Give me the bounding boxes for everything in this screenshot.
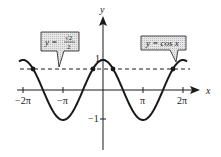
- tick-label-y1: 1: [95, 53, 100, 64]
- point-pi-4: [111, 67, 116, 72]
- tick-label-pi: π: [140, 95, 145, 106]
- callout-cos-x: y = cos x: [141, 36, 186, 62]
- y-axis-label: y: [99, 4, 105, 15]
- tick-label-yneg1: −1: [88, 113, 99, 124]
- callout-sqrt2-over-2: y = √2 2: [41, 32, 79, 67]
- callout-left-numerator: √2: [65, 34, 73, 42]
- tick-label-negpi: −π: [57, 95, 68, 106]
- point-neg-pi-4: [91, 67, 96, 72]
- callout-left-denominator: 2: [67, 43, 71, 51]
- tick-label-2pi: 2π: [177, 95, 187, 106]
- callout-right-label: y = cos x: [145, 38, 179, 48]
- callout-left-prefix: y =: [44, 37, 57, 47]
- y-axis: [99, 16, 107, 150]
- tick-label-neg2pi: −2π: [15, 95, 31, 106]
- cosine-graph: x y −2π −π π 2π 1 −1 y = √2 2 y = cos x: [0, 0, 221, 157]
- point-neg-7pi-4: [31, 67, 36, 72]
- x-axis-label: x: [205, 85, 211, 96]
- point-7pi-4: [171, 67, 176, 72]
